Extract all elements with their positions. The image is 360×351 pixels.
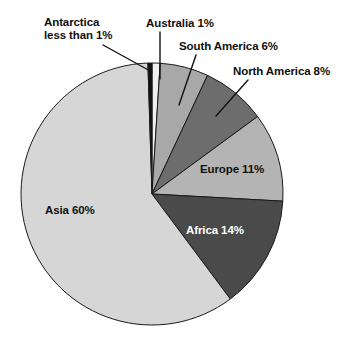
pie-label-north-america: North America 8% (233, 65, 330, 78)
pie-chart-canvas (0, 0, 360, 351)
pie-label-europe: Europe 11% (200, 163, 264, 175)
pie-chart-figure: Antarctica less than 1% Australia 1% Sou… (0, 0, 360, 351)
pie-label-antarctica-line1: Antarctica (44, 16, 99, 28)
pie-label-australia: Australia 1% (146, 17, 214, 30)
pie-label-south-america: South America 6% (179, 40, 278, 53)
pie-label-africa: Africa 14% (186, 224, 244, 236)
pie-slices (21, 63, 283, 325)
pie-label-antarctica-line2: less than 1% (44, 29, 112, 41)
pie-label-asia: Asia 60% (45, 204, 95, 216)
pie-label-antarctica: Antarctica less than 1% (44, 16, 140, 41)
